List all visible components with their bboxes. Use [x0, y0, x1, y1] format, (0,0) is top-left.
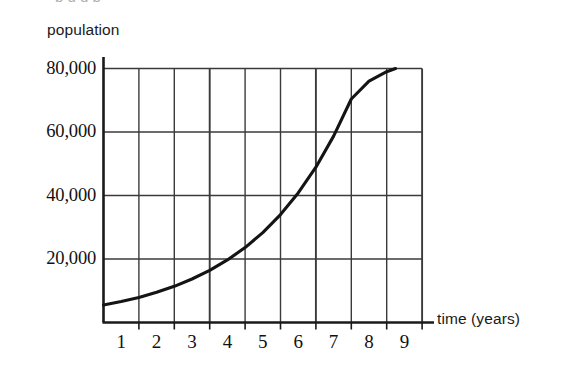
y-tick-label-text: 60,000	[22, 121, 96, 142]
x-tick-label: 8	[356, 331, 382, 353]
x-tick-label: 1	[108, 331, 134, 353]
horizontal-gridlines	[104, 69, 423, 260]
population-growth-figure: p g g p population time (years) 20,00040…	[0, 0, 569, 382]
chart-axes	[103, 57, 435, 323]
y-tick-label-text: 80,000	[22, 58, 96, 79]
x-tick-label: 4	[214, 331, 240, 353]
x-tick-label: 7	[321, 331, 347, 353]
x-axis-title: time (years)	[437, 310, 520, 328]
x-tick-label: 5	[250, 331, 276, 353]
x-tick-label: 3	[179, 331, 205, 353]
x-tick-label: 2	[144, 331, 170, 353]
cropped-header-text: p g g p	[55, 0, 355, 2]
x-tick-label: 6	[285, 331, 311, 353]
y-tick-label-text: 20,000	[22, 248, 96, 269]
x-tick-label: 9	[391, 331, 417, 353]
y-tick-label-text: 40,000	[22, 185, 96, 206]
y-axis-title: population	[47, 21, 120, 39]
